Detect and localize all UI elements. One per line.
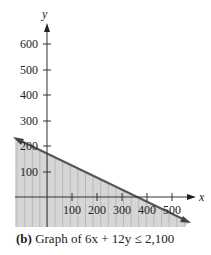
y-tick-label: 100: [20, 165, 38, 179]
figure-caption: (b) Graph of 6x + 12y ≤ 2,100: [16, 231, 174, 247]
y-tick-label: 500: [20, 63, 38, 77]
inequality-graph: 600 500 400 300 200 100 100 200 300 400 …: [0, 0, 211, 255]
x-tick-label: 100: [63, 203, 81, 217]
caption-text: Graph of 6x + 12y ≤ 2,100: [35, 231, 174, 246]
x-tick-label: 200: [88, 203, 106, 217]
x-axis-arrow-icon: [187, 194, 196, 200]
y-tick-label: 300: [20, 114, 38, 128]
y-tick-label: 600: [20, 37, 38, 51]
y-axis-arrow-icon: [44, 23, 50, 32]
x-tick-label: 500: [163, 203, 181, 217]
y-tick-label: 200: [20, 139, 38, 153]
x-tick-label: 400: [138, 203, 156, 217]
y-tick-label: 400: [20, 88, 38, 102]
x-axis-label: x: [198, 190, 205, 204]
y-axis-label: y: [41, 7, 48, 21]
caption-label: (b): [16, 231, 32, 246]
x-tick-label: 300: [113, 203, 131, 217]
line-arrow-right-icon: [180, 216, 191, 223]
